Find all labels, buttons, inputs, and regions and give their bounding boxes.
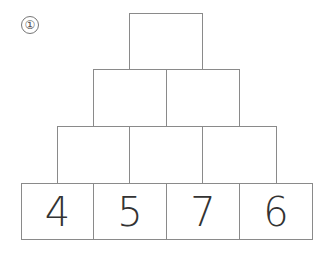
pyramid-cell-r2-c2[interactable] xyxy=(202,126,277,184)
pyramid-cell-r3-c0: 4 xyxy=(21,183,94,240)
pyramid-cell-r3-c3: 6 xyxy=(239,183,313,240)
pyramid-cell-r0-c0[interactable] xyxy=(129,13,203,70)
pyramid-cell-r1-c1[interactable] xyxy=(166,69,240,127)
pyramid-cell-r2-c1[interactable] xyxy=(129,126,203,184)
problem-number: ① xyxy=(21,16,39,34)
pyramid-cell-r3-c1: 5 xyxy=(93,183,167,240)
pyramid-cell-r2-c0[interactable] xyxy=(57,126,130,184)
pyramid-cell-r1-c0[interactable] xyxy=(93,69,167,127)
pyramid-cell-r3-c2: 7 xyxy=(166,183,240,240)
